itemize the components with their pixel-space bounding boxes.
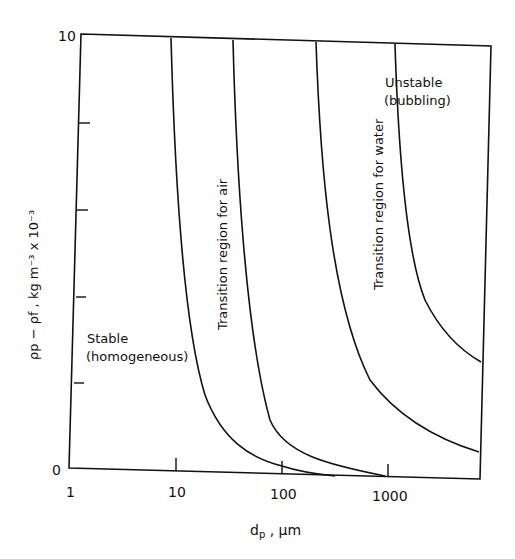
x-tick-label-10: 10: [168, 484, 186, 500]
x-tick-label-1: 1: [66, 484, 75, 500]
air-region-label: Transition region for air: [215, 178, 230, 331]
regime-chart: 10 0 1 10 100 1000 dp , μm ρp − ρf , kg …: [0, 0, 515, 559]
unstable-label-line1: Unstable: [385, 75, 442, 90]
y-tick-label-0: 0: [52, 462, 61, 478]
x-tick-label-100: 100: [270, 486, 297, 502]
curve-stable-air: [171, 38, 335, 476]
x-axis-label: dp , μm: [250, 522, 301, 540]
stable-label-line1: Stable: [87, 331, 128, 346]
unstable-label-line2: (bubbling): [384, 93, 451, 108]
y-axis-label: ρp − ρf , kg m⁻³ x 10⁻³: [26, 210, 41, 360]
curve-water-unstable: [395, 44, 481, 362]
y-tick-label-10: 10: [58, 28, 76, 44]
x-tick-label-1000: 1000: [372, 488, 408, 504]
stable-label-line2: (homogeneous): [86, 349, 188, 364]
curve-air-intermediate: [233, 40, 385, 476]
water-region-label: Transition region for water: [371, 118, 386, 291]
